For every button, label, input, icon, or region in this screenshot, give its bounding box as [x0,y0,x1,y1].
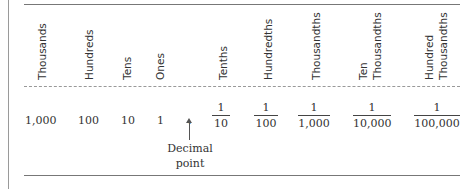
denominator: 1,000 [298,117,330,130]
value-thousands: 1,000 [25,114,57,127]
fraction-bar [353,115,391,116]
label-line2: point [160,156,220,171]
fraction-bar [298,115,330,116]
header-tenths: Tenths [217,46,229,80]
denominator: 100 [254,117,278,130]
value-hundreds: 100 [78,114,99,127]
fraction-hundredths: 1 100 [254,101,278,130]
fraction-bar [254,115,278,116]
numerator: 1 [254,101,278,114]
label-line1: Decimal [160,141,220,156]
arrow-shaft [189,120,190,140]
fraction-ten-thousandths: 1 10,000 [353,101,391,130]
fraction-thousandths: 1 1,000 [298,101,330,130]
denominator: 10 [212,117,230,130]
denominator: 10,000 [353,117,391,130]
value-ones: 1 [157,114,164,127]
header-hundreds: Hundreds [83,29,95,80]
header-thousandths: Thousandths [310,12,322,80]
decimal-point-label: Decimal point [160,141,220,171]
header-ones: Ones [154,53,166,80]
value-tens: 10 [121,114,135,127]
header-thousands: Thousands [36,23,48,80]
denominator: 100,000 [414,117,460,130]
fraction-hundred-thousandths: 1 100,000 [414,101,460,130]
bottom-rule [24,175,460,176]
numerator: 1 [414,101,460,114]
header-ten-thousandths-line2: Thousandths [371,12,383,80]
numerator: 1 [298,101,330,114]
numerator: 1 [353,101,391,114]
top-rule [24,4,460,5]
header-tens: Tens [121,57,133,80]
fraction-tenths: 1 10 [212,101,230,130]
dashed-separator [24,86,460,87]
fraction-bar [414,115,460,116]
header-hundred-thousandths-line1: Hundred [423,35,435,80]
fraction-bar [212,115,230,116]
numerator: 1 [212,101,230,114]
header-hundredths: Hundredths [262,19,274,80]
left-border [8,0,9,189]
header-ten-thousandths-line1: Ten [357,62,369,80]
header-hundred-thousandths-line2: Thousandths [437,12,449,80]
